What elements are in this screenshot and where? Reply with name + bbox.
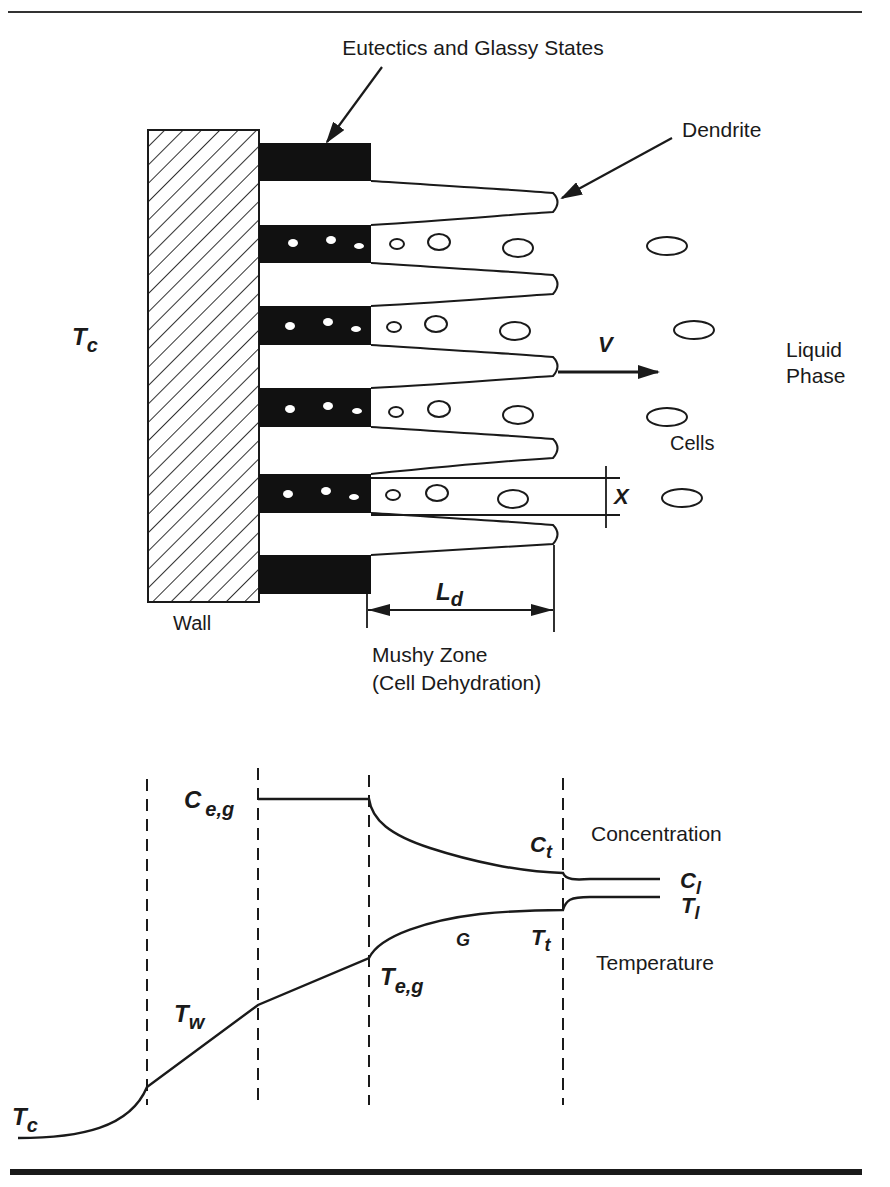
- tc-profile-label: Tc: [12, 1103, 38, 1136]
- schematic: Eutectics and Glassy States Dendrite Tc …: [72, 36, 846, 694]
- temperature-label: Temperature: [596, 951, 714, 974]
- dendrite-label: Dendrite: [682, 118, 761, 141]
- ct-label: Ct: [530, 832, 553, 862]
- eutectics-arrow: [327, 67, 382, 142]
- dendrite-arrow: [562, 138, 672, 198]
- concentration-label: Concentration: [591, 822, 722, 845]
- liquid-phase-label-2: Phase: [786, 364, 846, 387]
- profile-plot: Ce,g Ct Concentration Cl Tl G Tt Tempera…: [12, 768, 722, 1138]
- block-dots: [283, 236, 364, 500]
- g-label: G: [456, 930, 470, 950]
- mushy-zone-label-2: (Cell Dehydration): [372, 671, 541, 694]
- x-label: X: [612, 484, 630, 509]
- teg-label: Te,g: [380, 963, 424, 997]
- eutectic-blocks: [259, 143, 371, 594]
- liquid-phase-label: Liquid: [786, 338, 842, 361]
- mushy-zone-label: Mushy Zone: [372, 643, 488, 666]
- cells-label: Cells: [670, 432, 714, 454]
- tt-label: Tt: [531, 925, 551, 955]
- freezing-diagram: Eutectics and Glassy States Dendrite Tc …: [0, 0, 890, 1187]
- tw-label: Tw: [174, 1000, 206, 1033]
- wall-label: Wall: [173, 612, 211, 634]
- wall: [148, 130, 259, 602]
- v-label: V: [598, 332, 615, 357]
- tc-label: Tc: [72, 323, 98, 356]
- ld-label: Ld: [436, 578, 464, 610]
- eutectics-label: Eutectics and Glassy States: [342, 36, 603, 59]
- ceg-label: Ce,g: [184, 786, 234, 820]
